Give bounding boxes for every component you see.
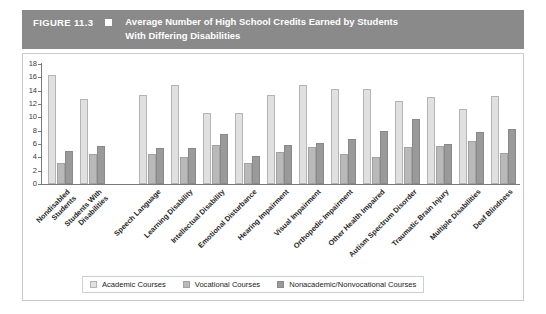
bar-academic[interactable]	[203, 113, 211, 184]
y-axis-tick-label: 14	[23, 87, 37, 95]
bar-group	[203, 64, 229, 184]
bar-academic[interactable]	[299, 85, 307, 184]
bar-vocational[interactable]	[468, 141, 476, 184]
y-axis-tick-label: 6	[23, 140, 37, 148]
bar-academic[interactable]	[459, 109, 467, 184]
legend-item[interactable]: Nonacademic/Nonvocational Courses	[277, 280, 416, 289]
legend-label: Vocational Courses	[195, 280, 260, 289]
bar-nonacademic[interactable]	[508, 129, 516, 184]
y-axis-tick-mark	[38, 184, 41, 185]
bar-nonacademic[interactable]	[65, 151, 73, 184]
bar-group	[139, 64, 165, 184]
y-axis-tick-label: 12	[23, 100, 37, 108]
bar-vocational[interactable]	[244, 163, 252, 184]
bar-group	[48, 64, 74, 184]
y-axis-tick-label: 10	[23, 113, 37, 121]
bar-academic[interactable]	[80, 99, 88, 184]
bar-nonacademic[interactable]	[444, 144, 452, 184]
legend-swatch-vocational	[183, 281, 190, 288]
bar-academic[interactable]	[491, 96, 499, 184]
bar-nonacademic[interactable]	[284, 145, 292, 184]
y-axis-tick-mark	[38, 64, 41, 65]
bar-vocational[interactable]	[340, 154, 348, 184]
x-axis-line	[41, 184, 520, 185]
bar-group	[331, 64, 357, 184]
y-axis-tick-label: 2	[23, 167, 37, 175]
bar-vocational[interactable]	[308, 147, 316, 184]
bar-group	[80, 64, 106, 184]
bar-academic[interactable]	[395, 101, 403, 184]
figure-title-line-1: Average Number of High School Credits Ea…	[125, 15, 398, 29]
bar-academic[interactable]	[331, 89, 339, 184]
y-axis-tick-label: 8	[23, 127, 37, 135]
bar-nonacademic[interactable]	[476, 132, 484, 184]
figure-header-band: FIGURE 11.3 Average Number of High Schoo…	[22, 10, 524, 49]
bar-nonacademic[interactable]	[188, 148, 196, 184]
bar-academic[interactable]	[48, 75, 56, 184]
y-axis-tick-mark	[38, 171, 41, 172]
bar-group	[235, 64, 261, 184]
bar-nonacademic[interactable]	[97, 146, 105, 184]
y-axis-tick-mark	[38, 131, 41, 132]
legend-item[interactable]: Vocational Courses	[183, 280, 260, 289]
bar-group	[395, 64, 421, 184]
bar-nonacademic[interactable]	[156, 148, 164, 184]
y-axis-tick-mark	[38, 91, 41, 92]
bar-vocational[interactable]	[57, 163, 65, 184]
bar-nonacademic[interactable]	[380, 131, 388, 184]
y-axis-tick-label: 16	[23, 73, 37, 81]
square-bullet-icon	[105, 19, 112, 26]
chart-legend: Academic CoursesVocational CoursesNonaca…	[82, 276, 424, 293]
y-axis-line	[41, 63, 42, 185]
y-axis-tick-label: 4	[23, 153, 37, 161]
bar-academic[interactable]	[171, 85, 179, 184]
bar-vocational[interactable]	[212, 145, 220, 184]
y-axis-tick-label: 0	[23, 180, 37, 188]
legend-label: Nonacademic/Nonvocational Courses	[289, 280, 416, 289]
bar-vocational[interactable]	[436, 146, 444, 184]
bar-vocational[interactable]	[148, 154, 156, 184]
bar-nonacademic[interactable]	[220, 134, 228, 184]
bar-group	[299, 64, 325, 184]
bar-vocational[interactable]	[500, 153, 508, 184]
bar-academic[interactable]	[235, 113, 243, 184]
figure-title-line-2: With Differing Disabilities	[125, 29, 398, 43]
bar-vocational[interactable]	[372, 157, 380, 184]
bar-academic[interactable]	[427, 97, 435, 184]
y-axis-tick-mark	[38, 104, 41, 105]
bar-nonacademic[interactable]	[348, 139, 356, 184]
bar-vocational[interactable]	[89, 154, 97, 184]
bar-group	[427, 64, 453, 184]
y-axis-tick-mark	[38, 157, 41, 158]
legend-item[interactable]: Academic Courses	[90, 280, 166, 289]
bar-nonacademic[interactable]	[412, 119, 420, 184]
bar-academic[interactable]	[267, 95, 275, 184]
legend-swatch-nonacademic	[277, 281, 284, 288]
bar-group	[267, 64, 293, 184]
bar-nonacademic[interactable]	[316, 143, 324, 184]
y-axis-tick-mark	[38, 77, 41, 78]
y-axis-tick-mark	[38, 144, 41, 145]
bar-group	[491, 64, 517, 184]
bar-vocational[interactable]	[180, 157, 188, 184]
legend-label: Academic Courses	[102, 280, 166, 289]
bar-academic[interactable]	[139, 95, 147, 184]
y-axis-tick-label: 18	[23, 60, 37, 68]
y-axis-tick-mark	[38, 117, 41, 118]
legend-swatch-academic	[90, 281, 97, 288]
figure-container: FIGURE 11.3 Average Number of High Schoo…	[0, 0, 546, 314]
figure-number: FIGURE 11.3	[33, 15, 93, 29]
bar-academic[interactable]	[363, 89, 371, 184]
bar-group	[171, 64, 197, 184]
bar-vocational[interactable]	[404, 147, 412, 184]
bar-group	[363, 64, 389, 184]
bar-nonacademic[interactable]	[252, 156, 260, 184]
figure-title: Average Number of High School Credits Ea…	[125, 15, 398, 42]
bar-group	[459, 64, 485, 184]
bar-vocational[interactable]	[276, 152, 284, 184]
